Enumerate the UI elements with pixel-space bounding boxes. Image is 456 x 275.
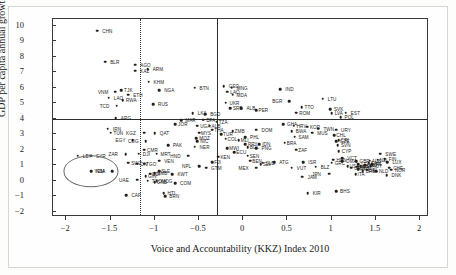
point-label-gnb: GNB <box>157 180 167 185</box>
point-label-lux: LUX <box>392 160 401 165</box>
point-label-zar: ZAR <box>109 152 119 157</box>
data-point-ltu <box>322 97 325 100</box>
data-point-per <box>255 109 258 112</box>
y-tick-mark <box>52 195 56 196</box>
point-label-can: CAN <box>371 160 381 165</box>
point-label-grc: GRC <box>335 160 346 165</box>
point-label-mex: MEX <box>238 165 248 170</box>
data-point-ago <box>134 63 137 66</box>
point-label-col: COL <box>228 136 238 141</box>
highlight-ellipse-ksa <box>63 156 118 187</box>
data-point-mda <box>231 94 234 97</box>
y-tick-mark <box>52 211 56 212</box>
data-point-tgo <box>146 179 149 182</box>
point-label-atg: ATG <box>279 160 288 165</box>
point-label-lva: LVA <box>335 111 343 116</box>
point-label-kir: KIR <box>313 191 321 196</box>
data-point-geo <box>222 85 225 88</box>
point-label-eth: ETH <box>133 92 143 97</box>
data-point-ukr <box>224 101 227 104</box>
data-point-bdi <box>149 172 152 175</box>
data-point-tza <box>215 121 218 124</box>
data-point-pak <box>167 144 170 147</box>
x-tick-mark <box>375 216 376 220</box>
data-point-nic <box>196 140 199 143</box>
x-tick-mark <box>286 216 287 220</box>
y-tick-mark <box>52 133 56 134</box>
data-point-mwi <box>226 147 229 150</box>
point-label-bra: BRA <box>287 140 297 145</box>
point-label-slv: SLV <box>263 162 272 167</box>
y-tick-label: −1 <box>15 190 24 200</box>
data-point-deu <box>364 164 367 167</box>
data-point-tjk <box>120 89 123 92</box>
point-label-mli: MLI <box>241 138 249 143</box>
point-label-kwt: KWT <box>177 172 188 177</box>
point-label-vnm: VNM <box>98 89 109 94</box>
point-label-arg: ARG <box>121 116 131 121</box>
data-point-jpn <box>328 172 331 175</box>
x-tick-label: 2 <box>417 223 421 233</box>
point-label-svn: SVN <box>341 143 351 148</box>
point-label-blz: BLZ <box>321 164 330 169</box>
y-tick-label: 6 <box>20 82 24 92</box>
point-label-btn: BTN <box>200 85 210 90</box>
point-label-tza: TZA <box>219 119 228 124</box>
data-point-cyp <box>337 150 340 153</box>
point-label-zaf: ZAF <box>298 147 307 152</box>
point-label-cri: CRI <box>341 138 349 143</box>
data-point-arm <box>146 68 149 71</box>
x-tick-mark <box>65 216 66 220</box>
data-point-arg <box>115 117 118 120</box>
data-point-jor <box>174 123 177 126</box>
y-tick-mark <box>52 149 56 150</box>
point-label-rus: RUS <box>158 102 168 107</box>
point-label-bdi: BDI <box>152 171 160 176</box>
x-tick-label: 1 <box>329 223 333 233</box>
data-point-rom <box>295 111 298 114</box>
data-point-dom <box>255 128 258 131</box>
point-label-nga: NGA <box>164 88 174 93</box>
data-point-tha <box>211 128 214 131</box>
data-point-usa <box>346 165 349 168</box>
data-point-ken <box>217 155 220 158</box>
data-point-hrv <box>292 124 295 127</box>
point-label-nic: NIC <box>200 139 208 144</box>
data-point-tgo <box>143 162 146 165</box>
point-label-ukr: UKR <box>230 100 240 105</box>
data-point-lao <box>107 97 110 100</box>
growth-threshold-line <box>53 119 427 120</box>
data-point-est <box>345 111 348 114</box>
data-point-svk <box>329 108 332 111</box>
data-point-tto <box>300 106 303 109</box>
point-label-com: COM <box>180 180 191 185</box>
data-point-dnk <box>385 174 388 177</box>
data-point-bfa <box>202 118 205 121</box>
data-point-swz <box>127 162 130 165</box>
data-point-kgz <box>143 131 146 134</box>
y-tick-mark <box>52 102 56 103</box>
data-point-mys <box>198 131 201 134</box>
point-label-bgd: BGD <box>210 112 220 117</box>
data-point-rus <box>152 103 155 106</box>
data-point-cmr <box>143 148 146 151</box>
figure-container: GDP per capita annual growth (%), 2000–1… <box>0 0 456 275</box>
y-tick-mark <box>52 56 56 57</box>
x-tick-mark <box>110 216 111 220</box>
data-point-nor <box>390 169 393 172</box>
y-tick-mark <box>52 164 56 165</box>
data-point-jam <box>301 175 304 178</box>
data-point-srb <box>229 107 232 110</box>
data-point-brn <box>164 195 167 198</box>
y-tick-label: −2 <box>15 206 24 216</box>
data-point-gnb <box>153 181 156 184</box>
point-label-isr: ISR <box>308 160 316 165</box>
voice-index-lower-line <box>140 19 141 215</box>
data-point-tur <box>220 133 223 136</box>
point-label-npl: NPL <box>182 163 191 168</box>
point-label-cyp: CYP <box>342 149 352 154</box>
x-tick-mark <box>242 216 243 220</box>
point-label-alb: ALB <box>246 105 255 110</box>
data-point-blr <box>104 60 107 63</box>
data-point-gha <box>282 123 285 126</box>
